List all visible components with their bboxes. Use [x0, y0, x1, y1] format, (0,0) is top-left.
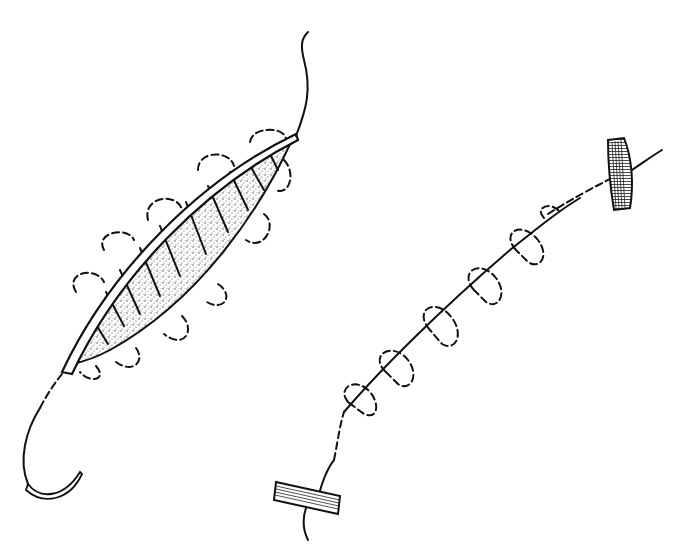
curved-needle [26, 472, 82, 499]
needle-thread [24, 408, 40, 484]
continuous-suture-line [318, 150, 662, 498]
right-suture-panel [274, 138, 662, 540]
suture-tail-bottom [304, 508, 308, 540]
suture-line-dashed-bottom [334, 412, 344, 460]
suture-illustration [0, 0, 694, 548]
illustration-svg [0, 0, 694, 548]
stippled-wound [72, 140, 292, 364]
left-suture-panel [24, 32, 308, 499]
suture-tail-top [296, 32, 308, 136]
dashed-loops-right [344, 206, 560, 415]
needle-thread-dashed [40, 374, 62, 408]
